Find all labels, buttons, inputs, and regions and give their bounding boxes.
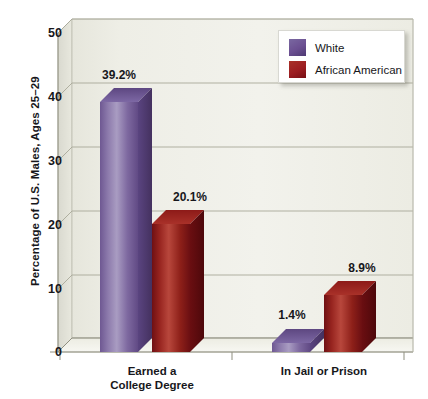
- legend-label-white: White: [315, 42, 344, 54]
- bar-front-face: [324, 295, 362, 352]
- bar-white-college: [100, 88, 152, 352]
- value-label-white-college: 39.2%: [84, 68, 154, 82]
- y-tick-50: 50: [28, 26, 62, 40]
- value-label-white-jail: 1.4%: [257, 308, 327, 322]
- legend-label-african-american: African American: [315, 64, 402, 76]
- legend: White African American: [278, 30, 405, 83]
- bar-black-jail: [324, 281, 376, 352]
- bar-chart: Percentage of U.S. Males, Ages 25–29 50 …: [0, 0, 428, 399]
- bar-black-college: [152, 210, 204, 352]
- y-tick-10: 10: [28, 282, 62, 296]
- y-axis-ticks: 50 40 30 20 10 0: [28, 0, 62, 399]
- value-label-black-jail: 8.9%: [327, 261, 397, 275]
- legend-item-african-american: African American: [289, 61, 402, 78]
- bar-side-face: [190, 210, 204, 352]
- legend-swatch-white: [289, 39, 306, 56]
- bar-front-face: [100, 102, 138, 352]
- category-label-jail: In Jail or Prison: [264, 364, 384, 378]
- bar-side-face: [138, 88, 152, 352]
- value-label-black-college: 20.1%: [155, 190, 225, 204]
- y-tick-40: 40: [28, 90, 62, 104]
- bar-white-jail: [272, 329, 324, 352]
- bar-front-face: [152, 224, 190, 352]
- category-label-college-line1: Earned a: [92, 364, 212, 378]
- bar-front-face: [272, 343, 310, 352]
- legend-swatch-african-american: [289, 61, 306, 78]
- y-tick-30: 30: [28, 154, 62, 168]
- category-label-college-line2: College Degree: [92, 378, 212, 392]
- legend-item-white: White: [289, 39, 344, 56]
- y-tick-20: 20: [28, 218, 62, 232]
- y-tick-0: 0: [28, 345, 62, 359]
